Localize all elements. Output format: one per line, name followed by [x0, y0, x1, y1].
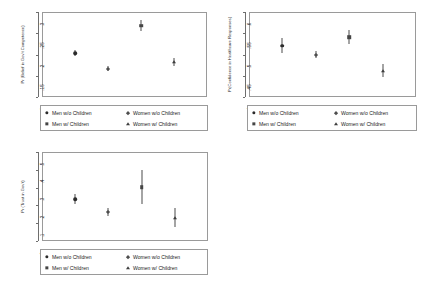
plot-area: [42, 12, 207, 97]
legend-item-men_wo_children: Men w/o Children: [252, 110, 334, 116]
circle-marker-icon: [45, 111, 48, 114]
legend-item-label: Men w/o Children: [52, 254, 92, 260]
y-tick-mark: [36, 223, 38, 224]
triangle-legend-glyph: [126, 122, 130, 126]
data-point-women_w_children: [381, 69, 385, 72]
legend-item-label: Women w/ Children: [341, 121, 385, 127]
legend-item-men_wo_children: Men w/o Children: [45, 254, 126, 260]
data-point-men_wo_children: [281, 44, 285, 48]
y-axis-title: Pr(Confidence in Healthcare Responses): [227, 12, 232, 97]
chart-panel-trust: 0.1.2.3.4.5Pr (Trust in Gov't)Men w/o Ch…: [0, 142, 423, 284]
y-tick-mark: [243, 76, 245, 77]
data-point-men_w_children: [347, 35, 351, 39]
diamond-legend-glyph: [334, 111, 338, 115]
circle-legend-glyph: [45, 111, 49, 115]
legend-item-label: Women w/o Children: [133, 254, 180, 260]
y-tick-label: .55: [247, 39, 252, 51]
triangle-marker-icon: [334, 122, 338, 125]
legend-item-men_w_children: Men w/ Children: [45, 265, 126, 271]
square-legend-glyph: [45, 122, 49, 126]
square-marker-icon: [45, 122, 48, 125]
diamond-marker-icon: [334, 111, 338, 115]
y-tick-label: .3: [40, 18, 45, 30]
legend-item-label: Women w/o Children: [341, 110, 388, 116]
data-point-men_wo_children: [73, 51, 77, 55]
y-tick-mark: [36, 170, 38, 171]
y-tick-mark: [243, 97, 245, 98]
triangle-marker-icon: [126, 266, 130, 269]
triangle-legend-glyph: [334, 122, 338, 126]
triangle-legend-glyph: [126, 266, 130, 270]
y-tick-label: .4: [40, 176, 45, 188]
y-tick-mark: [36, 205, 38, 206]
legend-item-label: Men w/ Children: [259, 121, 296, 127]
y-tick-mark: [36, 97, 38, 98]
legend-item-label: Men w/o Children: [52, 110, 92, 116]
y-tick-label: .15: [40, 82, 45, 94]
y-tick-mark: [243, 33, 245, 34]
data-point-men_wo_children: [73, 197, 77, 201]
plot-area: [249, 12, 416, 97]
triangle-marker-icon: [126, 122, 130, 125]
legend-entries: Men w/o ChildrenWomen w/o ChildrenMen w/…: [248, 106, 416, 130]
y-tick-mark: [36, 33, 38, 34]
y-axis-title: Pr (Belief in Gov't Competence): [20, 12, 25, 97]
data-point-women_w_children: [173, 216, 177, 219]
y-tick-mark: [36, 76, 38, 77]
legend-item-women_wo_children: Women w/o Children: [126, 110, 207, 116]
y-tick-label: .1: [40, 229, 45, 241]
legend-item-label: Men w/o Children: [259, 110, 299, 116]
square-marker-icon: [252, 122, 255, 125]
diamond-marker-icon: [126, 111, 130, 115]
y-tick-label: .25: [40, 39, 45, 51]
legend: Men w/o ChildrenWomen w/o ChildrenMen w/…: [40, 249, 208, 275]
y-tick-label: .2: [40, 61, 45, 73]
data-point-men_w_children: [140, 185, 144, 189]
diamond-marker-icon: [126, 255, 130, 259]
circle-legend-glyph: [252, 111, 256, 115]
circle-marker-icon: [45, 255, 48, 258]
legend: Men w/o ChildrenWomen w/o ChildrenMen w/…: [40, 105, 208, 131]
legend-item-label: Men w/ Children: [52, 265, 89, 271]
legend-item-men_wo_children: Men w/o Children: [45, 110, 126, 116]
y-tick-label: .5: [40, 158, 45, 170]
y-tick-mark: [36, 55, 38, 56]
y-tick-label: .45: [247, 82, 252, 94]
data-point-men_w_children: [139, 24, 143, 28]
y-tick-label: .6: [247, 18, 252, 30]
legend-item-women_wo_children: Women w/o Children: [334, 110, 416, 116]
y-tick-mark: [36, 241, 38, 242]
y-tick-mark: [243, 12, 245, 13]
circle-legend-glyph: [45, 255, 49, 259]
legend: Men w/o ChildrenWomen w/o ChildrenMen w/…: [247, 105, 417, 131]
legend-item-women_wo_children: Women w/o Children: [126, 254, 207, 260]
legend-item-label: Women w/ Children: [133, 265, 177, 271]
diamond-legend-glyph: [126, 111, 130, 115]
square-legend-glyph: [252, 122, 256, 126]
legend-entries: Men w/o ChildrenWomen w/o ChildrenMen w/…: [41, 250, 207, 274]
legend-item-men_w_children: Men w/ Children: [252, 121, 334, 127]
y-tick-label: .3: [40, 194, 45, 206]
square-legend-glyph: [45, 266, 49, 270]
legend-item-women_w_children: Women w/ Children: [126, 121, 207, 127]
y-axis-title: Pr (Trust in Gov't): [20, 152, 25, 241]
square-marker-icon: [45, 266, 48, 269]
y-tick-mark: [36, 152, 38, 153]
legend-entries: Men w/o ChildrenWomen w/o ChildrenMen w/…: [41, 106, 207, 130]
diamond-legend-glyph: [126, 255, 130, 259]
legend-item-label: Women w/o Children: [133, 110, 180, 116]
legend-item-label: Men w/ Children: [52, 121, 89, 127]
plot-area: [42, 152, 208, 241]
legend-item-men_w_children: Men w/ Children: [45, 121, 126, 127]
y-tick-mark: [36, 188, 38, 189]
legend-item-label: Women w/ Children: [133, 121, 177, 127]
y-tick-mark: [36, 12, 38, 13]
y-tick-label: .5: [247, 61, 252, 73]
y-tick-mark: [243, 55, 245, 56]
legend-item-women_w_children: Women w/ Children: [126, 265, 207, 271]
legend-item-women_w_children: Women w/ Children: [334, 121, 416, 127]
chart-panel-healthcare: .4.45.5.55.6Pr(Confidence in Healthcare …: [211, 0, 423, 142]
data-point-women_w_children: [172, 60, 176, 63]
circle-marker-icon: [252, 111, 255, 114]
y-tick-label: .2: [40, 211, 45, 223]
